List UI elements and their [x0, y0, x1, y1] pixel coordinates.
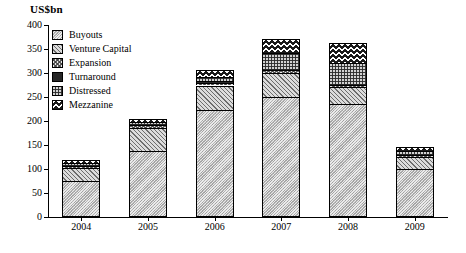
- legend-item-venture-capital[interactable]: Venture Capital: [52, 42, 202, 55]
- bar-segment-mezzanine: [129, 119, 167, 123]
- bar-segment-venture-capital: [129, 128, 167, 151]
- legend-item-mezzanine[interactable]: Mezzanine: [52, 98, 202, 111]
- x-axis-labels: 200420052006200720082009: [48, 221, 448, 237]
- x-tick-label: 2005: [123, 221, 173, 233]
- x-tick-label: 2009: [390, 221, 440, 233]
- y-tick-label: 350: [27, 44, 42, 54]
- bar-segment-distressed: [329, 63, 367, 84]
- y-tick: [44, 49, 48, 50]
- legend-swatch-icon: [52, 86, 63, 96]
- bar-segment-expansion: [329, 85, 367, 87]
- y-axis-labels: 050100150200250300350400: [8, 25, 42, 217]
- x-tick-label: 2007: [256, 221, 306, 233]
- bar-segment-buyouts: [262, 97, 300, 217]
- legend: BuyoutsVenture CapitalExpansionTurnaroun…: [52, 28, 202, 112]
- bar-2009: [396, 147, 434, 217]
- y-tick-label: 50: [32, 188, 42, 198]
- legend-swatch-icon: [52, 30, 63, 40]
- y-tick: [44, 193, 48, 194]
- y-tick-label: 250: [27, 92, 42, 102]
- bar-segment-venture-capital: [62, 168, 100, 181]
- bar-2008: [329, 43, 367, 217]
- bar-segment-expansion: [62, 166, 100, 168]
- bar-2007: [262, 39, 300, 217]
- y-tick: [44, 217, 48, 218]
- y-tick-label: 400: [27, 20, 42, 30]
- legend-item-label: Buyouts: [69, 29, 102, 40]
- bar-segment-mezzanine: [262, 39, 300, 53]
- x-tick-label: 2004: [56, 221, 106, 233]
- bar-2005: [129, 119, 167, 217]
- bar-segment-buyouts: [129, 151, 167, 217]
- y-tick-label: 300: [27, 68, 42, 78]
- legend-item-label: Turnaround: [69, 71, 116, 82]
- legend-item-expansion[interactable]: Expansion: [52, 56, 202, 69]
- legend-swatch-icon: [52, 58, 63, 68]
- bar-segment-buyouts: [196, 110, 234, 217]
- x-tick-label: 2006: [190, 221, 240, 233]
- bar-segment-venture-capital: [329, 87, 367, 104]
- bar-segment-distressed: [262, 53, 300, 68]
- y-tick-label: 150: [27, 140, 42, 150]
- y-tick-label: 0: [37, 212, 42, 222]
- y-tick-label: 200: [27, 116, 42, 126]
- bar-segment-buyouts: [396, 169, 434, 217]
- y-tick-label: 100: [27, 164, 42, 174]
- x-tick-label: 2008: [323, 221, 373, 233]
- bar-segment-venture-capital: [262, 73, 300, 97]
- bar-segment-mezzanine: [396, 147, 434, 151]
- bar-segment-venture-capital: [396, 157, 434, 169]
- legend-swatch-icon: [52, 44, 63, 54]
- legend-item-buyouts[interactable]: Buyouts: [52, 28, 202, 41]
- bar-segment-mezzanine: [329, 43, 367, 63]
- bar-segment-buyouts: [62, 181, 100, 217]
- y-tick: [44, 169, 48, 170]
- y-tick: [44, 73, 48, 74]
- y-tick: [44, 25, 48, 26]
- chart-root: US$bn 050100150200250300350400 200420052…: [0, 0, 466, 253]
- bar-segment-expansion: [129, 125, 167, 127]
- bar-segment-expansion: [396, 155, 434, 157]
- bar-segment-distressed: [396, 151, 434, 154]
- x-axis-line: [48, 217, 448, 218]
- legend-item-label: Venture Capital: [69, 43, 131, 54]
- bar-segment-expansion: [262, 70, 300, 73]
- bar-segment-buyouts: [329, 104, 367, 217]
- legend-item-turnaround[interactable]: Turnaround: [52, 70, 202, 83]
- legend-item-distressed[interactable]: Distressed: [52, 84, 202, 97]
- legend-item-label: Expansion: [69, 57, 111, 68]
- legend-swatch-icon: [52, 72, 63, 82]
- legend-swatch-icon: [52, 100, 63, 110]
- bar-2004: [62, 160, 100, 217]
- legend-item-label: Mezzanine: [69, 99, 113, 110]
- bar-segment-distressed: [129, 122, 167, 124]
- y-tick: [44, 121, 48, 122]
- bar-segment-mezzanine: [62, 160, 100, 163]
- chart-title: US$bn: [30, 3, 63, 15]
- y-tick: [44, 97, 48, 98]
- y-axis-line: [48, 25, 49, 217]
- y-tick: [44, 145, 48, 146]
- legend-item-label: Distressed: [69, 85, 111, 96]
